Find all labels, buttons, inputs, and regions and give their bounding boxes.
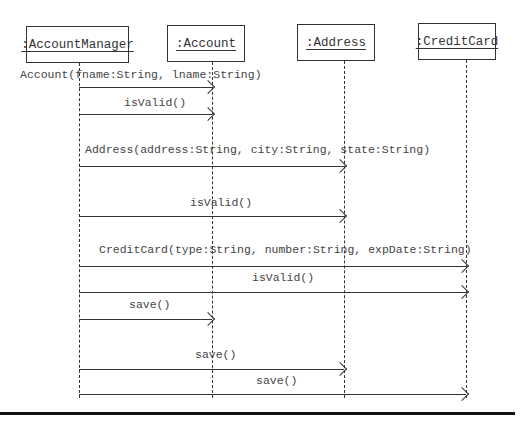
object-name: :Address <box>306 36 366 50</box>
message-arrow <box>79 394 466 395</box>
bottom-rule <box>0 412 515 415</box>
message-arrow <box>79 266 466 267</box>
message-arrow <box>79 292 466 293</box>
object-name: :Account <box>176 37 236 51</box>
object-name: :CreditCard <box>416 35 499 49</box>
message-arrow <box>79 114 212 115</box>
message-label: save() <box>195 348 236 361</box>
object-name: :AccountManager <box>21 38 134 52</box>
message-arrow <box>79 319 212 320</box>
message-arrow <box>79 87 212 88</box>
message-arrow <box>79 216 344 217</box>
message-label: isValid() <box>252 271 314 284</box>
object-box: :AccountManager <box>26 26 129 63</box>
message-label: save() <box>256 374 297 387</box>
object-box: :Account <box>167 25 245 62</box>
message-label: CreditCard(type:String, number:String, e… <box>99 243 472 256</box>
message-label: isValid() <box>124 96 186 109</box>
object-box: :CreditCard <box>418 23 496 60</box>
message-label: Address(address:String, city:String, sta… <box>85 143 430 156</box>
lifeline <box>344 61 345 398</box>
message-arrow <box>79 369 344 370</box>
object-box: :Address <box>297 24 375 61</box>
message-label: Account(fname:String, lname:String) <box>20 68 262 81</box>
lifeline <box>466 60 467 398</box>
message-label: isValid() <box>190 196 252 209</box>
message-label: save() <box>129 298 170 311</box>
message-arrow <box>79 166 344 167</box>
